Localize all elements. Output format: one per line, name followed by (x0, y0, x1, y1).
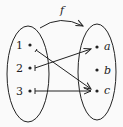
mapping-2-to-a (35, 49, 91, 71)
domain-dot-3 (28, 89, 31, 92)
function-arrow (40, 20, 83, 28)
codomain-dot-c (95, 89, 98, 92)
domain-element-3: 3 (16, 85, 23, 98)
domain-set-ellipse (7, 26, 49, 122)
codomain-dot-a (95, 45, 98, 48)
domain-dot-1 (28, 43, 31, 46)
domain-element-1: 1 (16, 39, 23, 52)
function-label: f (59, 4, 66, 17)
domain-dot-2 (28, 66, 31, 69)
domain-element-2: 2 (16, 62, 23, 75)
codomain-dot-b (95, 68, 98, 71)
codomain-element-a: a (104, 40, 111, 53)
mapping-3-to-c (35, 88, 91, 94)
codomain-element-c: c (104, 84, 110, 97)
mapping-1-to-c (35, 49, 91, 89)
function-mapping-diagram: f 1 2 3 a b c (0, 0, 123, 127)
codomain-element-b: b (104, 64, 111, 77)
